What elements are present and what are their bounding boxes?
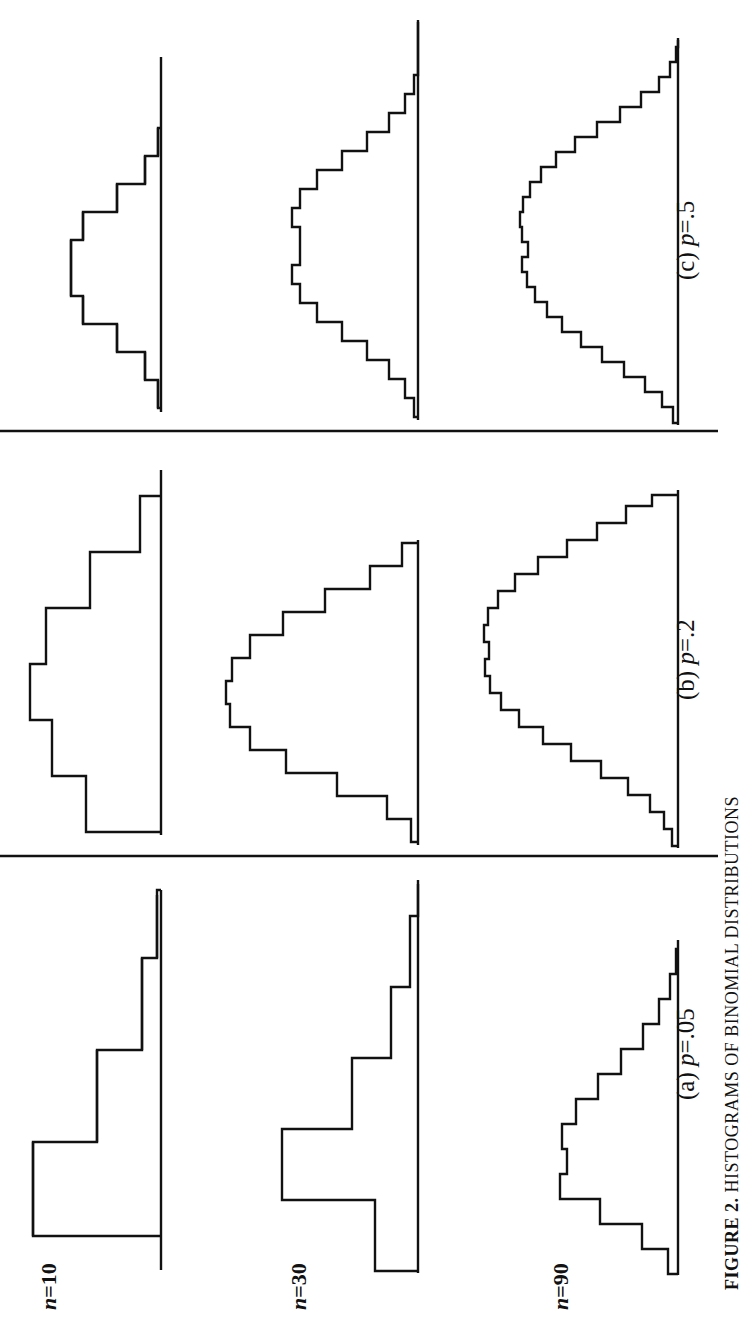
row-label-n10-symbol: n — [36, 1298, 61, 1310]
panel-label-b-prefix: (b) — [672, 671, 699, 700]
panel-label-b-value: =.2 — [672, 619, 699, 652]
hist-a-n90 — [560, 949, 678, 1274]
row-label-n10-value: =10 — [36, 1263, 61, 1298]
panel-divider-group — [0, 431, 718, 856]
panel-label-c-prefix: (c) — [672, 252, 699, 280]
hist-a-n10-steps — [33, 895, 157, 1236]
panel-label-a-value: =.05 — [672, 1008, 699, 1053]
panel-label-a: (a) p=.05 — [672, 1008, 700, 1100]
hist-c-n90 — [520, 40, 678, 423]
panel-label-a-symbol: p — [672, 1054, 699, 1067]
hist-b-n90 — [484, 495, 678, 846]
hist-c-n10 — [71, 128, 161, 408]
figure-caption-prefix: FIGURE 2. — [722, 1197, 742, 1290]
panel-label-c-value: =.5 — [672, 201, 699, 234]
panel-label-b: (b) p=.2 — [672, 619, 700, 700]
row-label-n90: n=90 — [548, 1263, 574, 1310]
panel-label-c-symbol: p — [672, 234, 699, 247]
row-label-n30-symbol: n — [286, 1298, 311, 1310]
hist-b-n10 — [30, 496, 161, 832]
row-label-n90-value: =90 — [548, 1263, 573, 1298]
row-label-n30: n=30 — [286, 1263, 312, 1310]
row-label-n90-symbol: n — [548, 1298, 573, 1310]
row-label-n10: n=10 — [36, 1263, 62, 1310]
panel-label-a-prefix: (a) — [672, 1072, 699, 1100]
figure-caption: FIGURE 2. HISTOGRAMS OF BINOMIAL DISTRIB… — [722, 796, 743, 1290]
hist-c-n30 — [292, 22, 418, 417]
figure-caption-text: HISTOGRAMS OF BINOMIAL DISTRIBUTIONS — [722, 796, 742, 1193]
hist-a-n30 — [282, 884, 418, 1271]
panel-label-b-symbol: p — [672, 652, 699, 665]
panel-label-c: (c) p=.5 — [672, 201, 700, 280]
row-label-n30-value: =30 — [286, 1263, 311, 1298]
hist-b-n30 — [226, 543, 418, 842]
hist-c-n10-inner — [71, 128, 158, 408]
